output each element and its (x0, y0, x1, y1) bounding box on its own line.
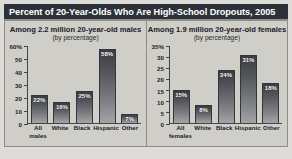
y-tick-males-10 (24, 111, 28, 112)
x-tick-label: Allmales (27, 124, 49, 142)
bar-value-label: 24% (220, 72, 232, 78)
x-tick-label: Black (71, 124, 93, 142)
bar-females-3[interactable]: 31% (240, 55, 257, 123)
bar-slot: 16% (51, 46, 74, 123)
y-tick-males-20 (24, 98, 28, 99)
bar-slot: 31% (237, 46, 259, 123)
bar-value-label: 25% (78, 93, 90, 99)
x-tick-label: White (49, 124, 71, 142)
y-tick-females-15 (166, 90, 170, 91)
bar-group-females: 15%8%24%31%18% (170, 46, 282, 123)
bar-value-label: 16% (56, 104, 68, 110)
charts-container: Among 2.2 million 20-year-old males (by … (4, 20, 288, 147)
bar-slot: 7% (118, 46, 141, 123)
bar-slot: 58% (96, 46, 119, 123)
bar-slot: 25% (73, 46, 96, 123)
y-tick-label-females-20: 20 (157, 76, 164, 83)
y-tick-label-females-35: 35% (152, 43, 164, 50)
bar-slot: 15% (170, 46, 192, 123)
chart-title-males: Among 2.2 million 20-year-old males (5, 25, 146, 34)
y-tick-label-males-60: 60% (10, 43, 22, 50)
chart-title-females: Among 1.9 million 20-year-old females (147, 25, 287, 34)
page-title: Percent of 20-Year-Olds Who Are High-Sch… (4, 7, 275, 17)
y-tick-label-females-25: 25 (157, 65, 164, 72)
chart-panel-males: Among 2.2 million 20-year-old males (by … (5, 21, 146, 146)
plot-area-females: 15%8%24%31%18% 05101520253035% (169, 46, 282, 124)
chart-subtitle-males: (by percentage) (5, 34, 146, 42)
bar-males-3[interactable]: 58% (99, 49, 116, 123)
chart-panel-females: Among 1.9 million 20-year-old females (b… (146, 21, 287, 146)
y-tick-label-males-0: 0 (19, 121, 22, 128)
chart-subtitle-females: (by percentage) (147, 34, 287, 42)
bar-value-label: 7% (125, 116, 134, 122)
chart-title-band: Percent of 20-Year-Olds Who Are High-Sch… (4, 4, 288, 19)
bar-slot: 18% (260, 46, 282, 123)
y-tick-females-30 (166, 57, 170, 58)
bar-males-0[interactable]: 22% (31, 95, 48, 123)
x-tick-label: Other (261, 124, 282, 142)
bar-males-4[interactable]: 7% (121, 114, 138, 123)
x-tick-labels-males: AllmalesWhiteBlackHispanicOther (27, 124, 141, 142)
bar-females-0[interactable]: 15% (173, 90, 190, 123)
chart-header-males: Among 2.2 million 20-year-old males (by … (5, 25, 146, 42)
bar-slot: 24% (215, 46, 237, 123)
y-tick-males-30 (24, 85, 28, 86)
y-tick-females-5 (166, 112, 170, 113)
y-tick-label-females-30: 30 (157, 54, 164, 61)
y-tick-males-40 (24, 72, 28, 73)
bar-value-label: 18% (265, 85, 277, 91)
x-tick-label: Hispanic (235, 124, 261, 142)
bar-value-label: 15% (175, 92, 187, 98)
y-tick-females-25 (166, 68, 170, 69)
x-tick-label: Black (213, 124, 234, 142)
bar-males-2[interactable]: 25% (76, 91, 93, 123)
y-tick-label-females-15: 15 (157, 87, 164, 94)
bar-value-label: 31% (242, 57, 254, 63)
x-tick-label: Hispanic (93, 124, 119, 142)
y-tick-label-males-40: 40 (15, 69, 22, 76)
plot-area-males: 22%16%25%58%7% 0102030405060% (27, 46, 141, 124)
y-tick-label-males-30: 30 (15, 82, 22, 89)
y-tick-females-10 (166, 101, 170, 102)
y-tick-label-males-50: 50 (15, 56, 22, 63)
chart-header-females: Among 1.9 million 20-year-old females (b… (147, 25, 287, 42)
y-tick-males-50 (24, 59, 28, 60)
x-tick-label: Other (119, 124, 141, 142)
y-tick-label-males-10: 10 (15, 108, 22, 115)
x-tick-label: Allfemales (169, 124, 192, 142)
bar-group-males: 22%16%25%58%7% (28, 46, 141, 123)
bar-slot: 8% (192, 46, 214, 123)
x-tick-label: White (192, 124, 213, 142)
y-tick-males-60 (24, 46, 28, 47)
bar-males-1[interactable]: 16% (53, 102, 70, 123)
y-tick-females-35 (166, 46, 170, 47)
bar-value-label: 8% (199, 107, 208, 113)
bar-value-label: 22% (33, 97, 45, 103)
bar-females-2[interactable]: 24% (218, 70, 235, 123)
bar-slot: 22% (28, 46, 51, 123)
y-tick-label-males-20: 20 (15, 95, 22, 102)
chart-figure: Percent of 20-Year-Olds Who Are High-Sch… (0, 0, 292, 159)
y-tick-females-20 (166, 79, 170, 80)
bar-females-1[interactable]: 8% (195, 105, 212, 123)
bar-value-label: 58% (101, 51, 113, 57)
y-tick-label-females-10: 10 (157, 98, 164, 105)
bar-females-4[interactable]: 18% (262, 83, 279, 123)
y-tick-label-females-0: 0 (161, 121, 164, 128)
y-tick-label-females-5: 5 (161, 109, 164, 116)
x-tick-labels-females: AllfemalesWhiteBlackHispanicOther (169, 124, 282, 142)
